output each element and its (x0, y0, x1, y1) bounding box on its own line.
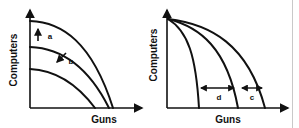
right-chart-curve-middle (168, 19, 238, 108)
left-chart-label-a: a (48, 32, 53, 41)
left-chart-curve-inner (30, 69, 95, 108)
right-edge-rule (292, 0, 293, 128)
figure-canvas: a b Guns Computers d (0, 0, 299, 128)
left-chart: a b Guns Computers (8, 10, 142, 125)
left-chart-ylabel: Computers (8, 33, 19, 86)
left-chart-label-b: b (69, 57, 74, 66)
right-chart: d c Guns Computers (148, 10, 288, 125)
right-chart-ylabel: Computers (148, 28, 159, 81)
ppf-figure: a b Guns Computers d (0, 0, 299, 128)
right-chart-curve-inner (168, 19, 199, 108)
right-chart-label-d: d (217, 93, 222, 102)
right-chart-label-c: c (250, 93, 255, 102)
right-chart-xlabel: Guns (215, 114, 241, 125)
left-chart-xlabel: Guns (91, 114, 117, 125)
